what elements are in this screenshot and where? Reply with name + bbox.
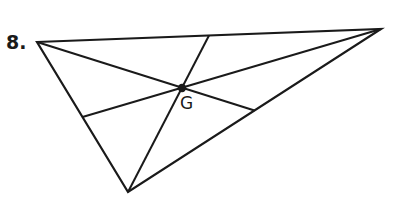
median-from-C xyxy=(128,36,209,193)
triangle-diagram xyxy=(0,0,394,202)
triangle xyxy=(37,29,381,192)
centroid-label: G xyxy=(180,95,193,112)
centroid-point xyxy=(178,84,186,92)
